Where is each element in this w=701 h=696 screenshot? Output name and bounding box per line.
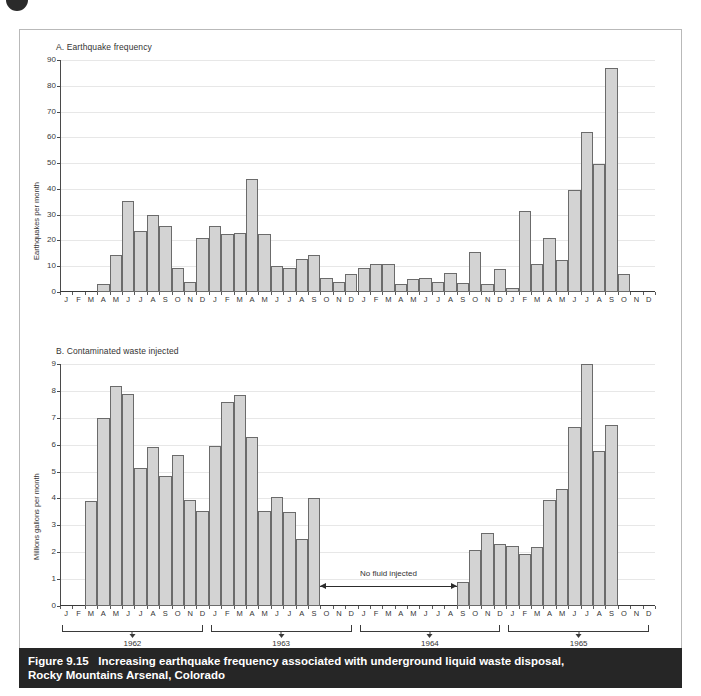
x-axis-tick-mark bbox=[469, 292, 470, 295]
x-axis-month-label: J bbox=[424, 296, 428, 304]
x-axis-tick-mark bbox=[345, 606, 346, 609]
x-axis-tick-mark bbox=[234, 292, 235, 295]
x-axis-month-label: D bbox=[349, 610, 354, 618]
bar bbox=[271, 497, 283, 606]
x-axis-tick-mark bbox=[630, 292, 631, 295]
bar bbox=[481, 284, 493, 292]
x-axis-tick-mark bbox=[110, 292, 111, 295]
figure-panel: A. Earthquake frequency Earthquakes per … bbox=[19, 29, 682, 665]
x-axis-tick-mark bbox=[543, 292, 544, 295]
x-axis-month-label: O bbox=[621, 610, 627, 618]
bar bbox=[196, 511, 208, 606]
x-axis-tick-mark bbox=[110, 606, 111, 609]
bar bbox=[258, 511, 270, 606]
x-axis-tick-mark bbox=[134, 292, 135, 295]
bar bbox=[209, 226, 221, 292]
year-bracket: 1965 bbox=[508, 625, 649, 632]
x-axis-month-label: N bbox=[336, 610, 341, 618]
x-axis-tick-mark bbox=[308, 606, 309, 609]
x-axis-tick-mark bbox=[221, 292, 222, 295]
x-axis-month-label: J bbox=[139, 610, 143, 618]
x-axis-tick-mark bbox=[72, 292, 73, 295]
x-axis-month-label: D bbox=[200, 610, 205, 618]
x-axis-month-label: J bbox=[139, 296, 143, 304]
x-axis-tick-mark bbox=[531, 292, 532, 295]
year-label: 1963 bbox=[272, 639, 290, 648]
x-axis-tick-mark bbox=[605, 606, 606, 609]
x-axis-tick-mark bbox=[258, 606, 259, 609]
no-fluid-injected-annotation: No fluid injected bbox=[320, 580, 456, 592]
bar bbox=[382, 264, 394, 292]
x-axis-tick-mark bbox=[506, 292, 507, 295]
x-axis-tick-mark bbox=[296, 606, 297, 609]
chart-a-y-axis-title: Earthquakes per month bbox=[32, 182, 41, 260]
x-axis-month-label: N bbox=[485, 296, 490, 304]
x-axis-month-label: M bbox=[237, 296, 243, 304]
bar bbox=[320, 278, 332, 292]
x-axis-tick-mark bbox=[395, 606, 396, 609]
year-bracket: 1964 bbox=[360, 625, 501, 632]
x-axis-tick-mark bbox=[618, 606, 619, 609]
bar bbox=[308, 255, 320, 292]
x-axis-month-label: O bbox=[175, 296, 181, 304]
x-axis-month-label: F bbox=[225, 296, 230, 304]
x-axis-tick-mark bbox=[296, 292, 297, 295]
year-bracket-pointer bbox=[429, 631, 430, 635]
bar bbox=[122, 394, 134, 606]
x-axis-month-label: A bbox=[448, 610, 453, 618]
x-axis-tick-mark bbox=[593, 606, 594, 609]
x-axis-tick-mark bbox=[97, 606, 98, 609]
bar bbox=[457, 582, 469, 606]
x-axis-month-label: A bbox=[597, 610, 602, 618]
bar bbox=[469, 252, 481, 292]
x-axis-tick-mark bbox=[221, 606, 222, 609]
x-axis-tick-mark bbox=[407, 292, 408, 295]
x-axis-tick-mark bbox=[134, 606, 135, 609]
x-axis-tick-mark bbox=[395, 292, 396, 295]
x-axis-month-label: D bbox=[349, 296, 354, 304]
bar bbox=[308, 498, 320, 606]
x-axis-month-label: A bbox=[101, 610, 106, 618]
bar bbox=[345, 274, 357, 292]
x-axis-month-label: F bbox=[523, 610, 528, 618]
x-axis-month-label: S bbox=[312, 610, 317, 618]
bar bbox=[97, 284, 109, 292]
x-axis-month-label: D bbox=[497, 296, 502, 304]
x-axis-month-label: M bbox=[88, 610, 94, 618]
bar bbox=[159, 476, 171, 606]
x-axis-month-label: D bbox=[200, 296, 205, 304]
bar bbox=[85, 501, 97, 606]
x-axis-month-label: J bbox=[436, 610, 440, 618]
x-axis-month-label: A bbox=[150, 610, 155, 618]
x-axis-month-label: J bbox=[213, 296, 217, 304]
chart-b-plot-area: 0123456789JFMAMJJASONDJFMAMJJASONDJFMAMJ… bbox=[60, 364, 655, 606]
bar bbox=[283, 268, 295, 292]
x-axis-month-label: A bbox=[398, 296, 403, 304]
bar bbox=[419, 278, 431, 292]
bar bbox=[543, 238, 555, 292]
x-axis-tick-mark bbox=[345, 292, 346, 295]
bar bbox=[469, 550, 481, 606]
x-axis-month-label: J bbox=[275, 296, 279, 304]
x-axis-tick-mark bbox=[246, 606, 247, 609]
x-axis-month-label: J bbox=[126, 296, 130, 304]
x-axis-tick-mark bbox=[172, 292, 173, 295]
bar bbox=[593, 451, 605, 606]
x-axis-month-label: M bbox=[261, 296, 267, 304]
x-axis-month-label: J bbox=[511, 296, 515, 304]
x-axis-tick-mark bbox=[196, 292, 197, 295]
x-axis-month-label: A bbox=[250, 296, 255, 304]
x-axis-tick-mark bbox=[358, 292, 359, 295]
x-axis-tick-mark bbox=[581, 292, 582, 295]
x-axis-month-label: J bbox=[436, 296, 440, 304]
x-axis-month-label: S bbox=[163, 296, 168, 304]
x-axis-tick-mark bbox=[457, 292, 458, 295]
x-axis-tick-mark bbox=[643, 606, 644, 609]
gridline bbox=[60, 418, 655, 419]
x-axis-tick-mark bbox=[593, 292, 594, 295]
x-axis-month-label: J bbox=[585, 610, 589, 618]
x-axis-tick-mark bbox=[184, 606, 185, 609]
x-axis-month-label: M bbox=[261, 610, 267, 618]
x-axis-tick-mark bbox=[97, 292, 98, 295]
y-axis-tick-label: 2 bbox=[52, 548, 56, 556]
